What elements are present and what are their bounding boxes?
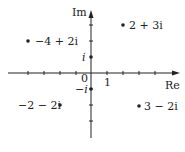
y-axis-label: Im: [72, 6, 87, 19]
y-axis-arrow-icon: [89, 10, 94, 18]
y-axis: [89, 10, 94, 138]
point-neg4-plus-2i: −4 + 2i: [26, 35, 78, 48]
point-label: 3 − 2i: [144, 100, 178, 113]
x-axis-label: Re: [165, 79, 180, 92]
point-label: −2 − 2i: [18, 99, 61, 112]
i-label: i: [82, 51, 86, 64]
x-axis-arrow-icon: [172, 71, 180, 76]
point-label: 2 + 3i: [129, 19, 163, 32]
point-3-minus-2i: 3 − 2i: [137, 100, 178, 113]
x-unit-label: 1: [104, 76, 111, 89]
point-2-plus-3i: 2 + 3i: [121, 19, 163, 32]
point-label: −4 + 2i: [35, 35, 78, 48]
complex-plane-diagram: Im Re 0 1 i −i 2 + 3i −4 + 2i −2 − 2i 3 …: [0, 0, 185, 152]
unit-neg-i-point: [89, 87, 93, 91]
x-axis: [8, 71, 180, 76]
point-neg2-minus-2i: −2 − 2i: [18, 99, 62, 112]
unit-i-point: [89, 55, 93, 59]
neg-i-label: −i: [75, 83, 88, 96]
